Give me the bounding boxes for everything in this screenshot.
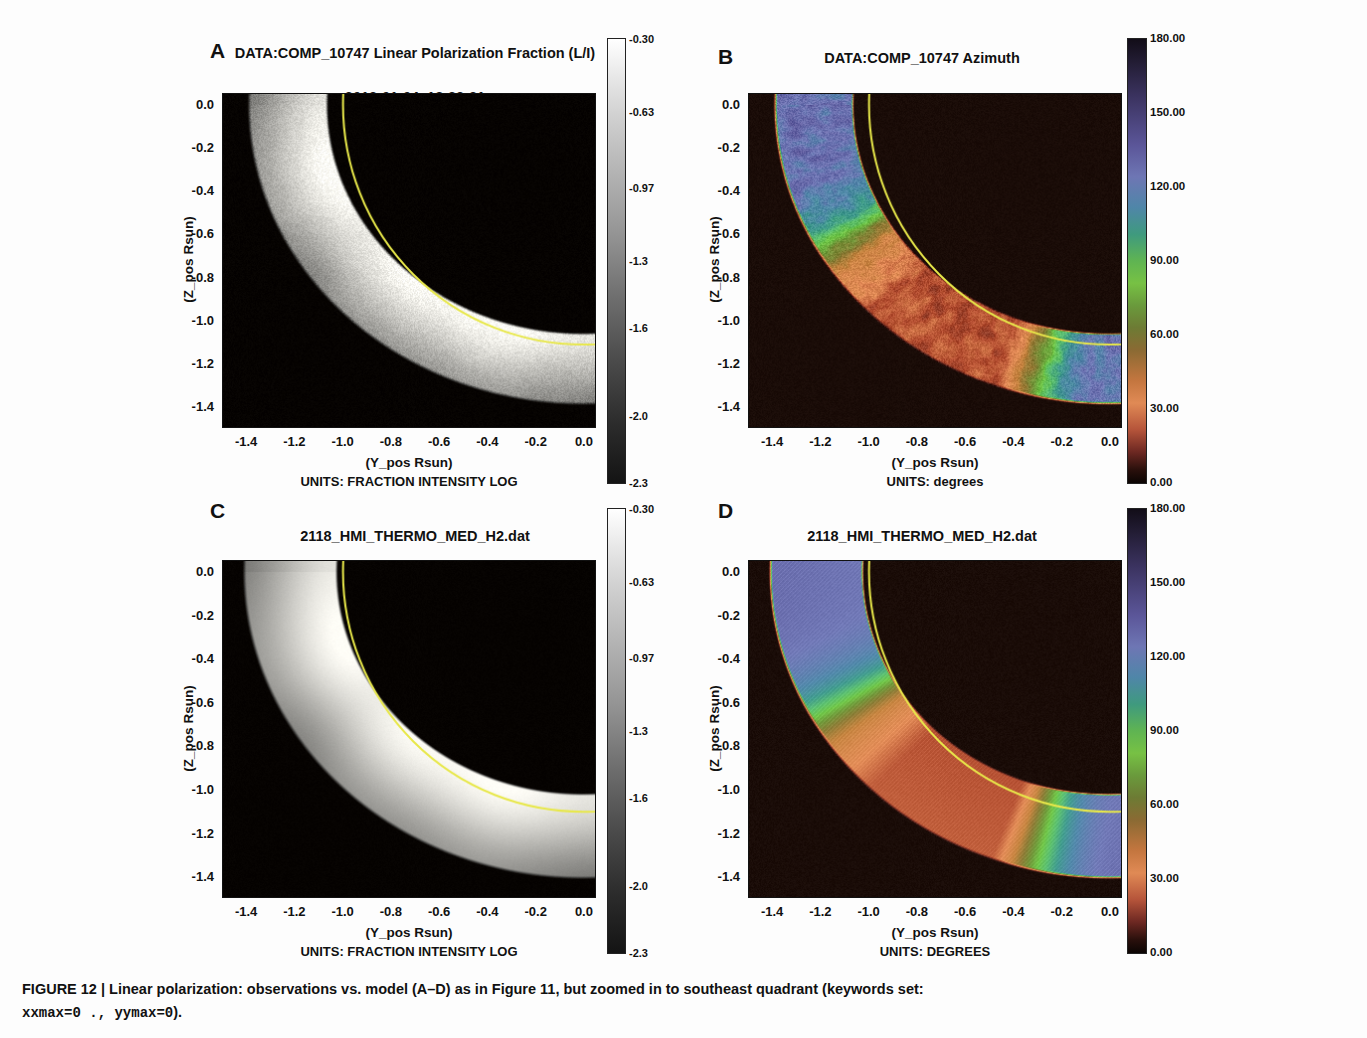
y-tick-label: 0.0 [692, 563, 740, 578]
x-tick-label: -0.2 [1050, 904, 1072, 919]
y-tick-label: -0.4 [692, 183, 740, 198]
panel-c-xlabel: (Y_pos Rsun) [222, 925, 596, 940]
panel-b-xlabel: (Y_pos Rsun) [748, 455, 1122, 470]
caption-tail: ). [173, 1004, 182, 1020]
panel-a-image [223, 94, 595, 427]
colorbar-tick-label: -0.63 [625, 577, 654, 588]
x-tick-label: -1.4 [761, 434, 783, 449]
x-tick-label: -1.4 [235, 434, 257, 449]
panel-c-units: UNITS: FRACTION INTENSITY LOG [222, 944, 596, 959]
colorbar-tick-label: 90.00 [1146, 725, 1179, 737]
x-tick-label: -0.4 [476, 434, 498, 449]
y-tick-label: -0.4 [166, 183, 214, 198]
colorbar-tick-label: -0.30 [625, 504, 654, 515]
x-tick-label: -1.2 [809, 904, 831, 919]
y-tick-label: -1.2 [166, 825, 214, 840]
colorbar-tick-label: 30.00 [1146, 873, 1179, 885]
x-tick-label: -0.6 [428, 904, 450, 919]
colorbar-tick-label: 60.00 [1146, 799, 1179, 811]
colorbar-tick-label: 150.00 [1146, 107, 1185, 119]
colorbar-tick-label: 0.00 [1146, 477, 1172, 489]
x-tick-label: -0.2 [524, 904, 546, 919]
x-tick-label: -0.6 [954, 904, 976, 919]
panel-a-plot [222, 93, 596, 428]
x-tick-label: 0.0 [1101, 434, 1119, 449]
colorbar-tick-label: -0.97 [625, 182, 654, 193]
caption-keyword-xxmax: xxmax=0 . [22, 1005, 98, 1021]
y-tick-label: 0.0 [166, 96, 214, 111]
x-tick-label: -0.6 [954, 434, 976, 449]
figure-caption: FIGURE 12 | Linear polarization: observa… [22, 978, 1312, 1025]
colorbar-tick-label: 120.00 [1146, 651, 1185, 663]
panel-d-plot [748, 560, 1122, 898]
colorbar-tick-label: -2.0 [625, 411, 648, 422]
x-tick-label: -1.0 [857, 904, 879, 919]
panel-d-colorbar: 180.00150.00120.0090.0060.0030.000.00 [1127, 508, 1147, 954]
panel-d-ylabel: (Z_pos Rsun) [707, 669, 722, 789]
panel-b-colorbar: 180.00150.00120.0090.0060.0030.000.00 [1127, 38, 1147, 484]
y-tick-label: -1.2 [166, 356, 214, 371]
y-tick-label: -1.4 [692, 869, 740, 884]
colorbar-tick-label: -1.3 [625, 256, 648, 267]
x-tick-label: -1.2 [283, 904, 305, 919]
figure-page: A DATA:COMP_10747 Linear Polarization Fr… [0, 0, 1367, 1038]
y-tick-label: -0.4 [166, 651, 214, 666]
x-tick-label: -1.0 [857, 434, 879, 449]
x-tick-label: -1.4 [761, 904, 783, 919]
x-tick-label: -1.0 [331, 904, 353, 919]
y-tick-label: 0.0 [692, 96, 740, 111]
x-tick-label: -0.2 [524, 434, 546, 449]
colorbar-tick-label: 120.00 [1146, 181, 1185, 193]
x-tick-label: -0.4 [476, 904, 498, 919]
panel-c-image [223, 561, 595, 897]
colorbar-tick-label: -0.97 [625, 652, 654, 663]
panel-a-units: UNITS: FRACTION INTENSITY LOG [222, 474, 596, 489]
caption-separator: , [98, 1005, 115, 1021]
x-tick-label: -0.4 [1002, 904, 1024, 919]
colorbar-tick-label: -1.6 [625, 792, 648, 803]
colorbar-tick-label: 150.00 [1146, 577, 1185, 589]
panel-c-colorbar: -0.30-0.63-0.97-1.3-1.6-2.0-2.3 [607, 508, 626, 954]
panel-b-image [749, 94, 1121, 427]
x-tick-label: 0.0 [575, 434, 593, 449]
colorbar-tick-label: -2.0 [625, 881, 648, 892]
x-tick-label: -0.2 [1050, 434, 1072, 449]
x-tick-label: -0.8 [906, 434, 928, 449]
panel-c-plot [222, 560, 596, 898]
colorbar-tick-label: 180.00 [1146, 33, 1185, 45]
colorbar-tick-label: 60.00 [1146, 329, 1179, 341]
x-tick-label: -0.6 [428, 434, 450, 449]
panel-b-plot [748, 93, 1122, 428]
y-tick-label: -1.4 [166, 869, 214, 884]
colorbar-tick-label: -2.3 [625, 948, 648, 959]
panel-a-xlabel: (Y_pos Rsun) [222, 455, 596, 470]
caption-keyword-yymax: yymax=0 [114, 1005, 173, 1021]
x-tick-label: -0.8 [906, 904, 928, 919]
panel-d-units: UNITS: DEGREES [748, 944, 1122, 959]
x-tick-label: -1.0 [331, 434, 353, 449]
colorbar-tick-label: 180.00 [1146, 503, 1185, 515]
colorbar-tick-label: -0.63 [625, 107, 654, 118]
y-tick-label: -1.4 [166, 399, 214, 414]
panel-b-title-line1: DATA:COMP_10747 Azimuth [712, 51, 1132, 66]
panel-b-units: UNITS: degrees [748, 474, 1122, 489]
y-tick-label: -0.2 [692, 607, 740, 622]
panel-c-ylabel: (Z_pos Rsun) [181, 669, 196, 789]
y-tick-label: -0.2 [692, 140, 740, 155]
y-tick-label: -1.4 [692, 399, 740, 414]
panel-a-title-line1: DATA:COMP_10747 Linear Polarization Frac… [205, 46, 625, 61]
panel-d-title-line1: 2118_HMI_THERMO_MED_H2.dat [712, 529, 1132, 544]
y-tick-label: -1.2 [692, 356, 740, 371]
x-tick-label: -1.2 [809, 434, 831, 449]
x-tick-label: -1.2 [283, 434, 305, 449]
y-tick-label: 0.0 [166, 563, 214, 578]
y-tick-label: -0.2 [166, 140, 214, 155]
colorbar-tick-label: 30.00 [1146, 403, 1179, 415]
panel-d-image [749, 561, 1121, 897]
caption-line-1: FIGURE 12 | Linear polarization: observa… [22, 981, 924, 997]
y-tick-label: -0.2 [166, 607, 214, 622]
panel-a-ylabel: (Z_pos Rsun) [181, 200, 196, 320]
x-tick-label: 0.0 [1101, 904, 1119, 919]
colorbar-tick-label: -0.30 [625, 34, 654, 45]
panel-d-xlabel: (Y_pos Rsun) [748, 925, 1122, 940]
